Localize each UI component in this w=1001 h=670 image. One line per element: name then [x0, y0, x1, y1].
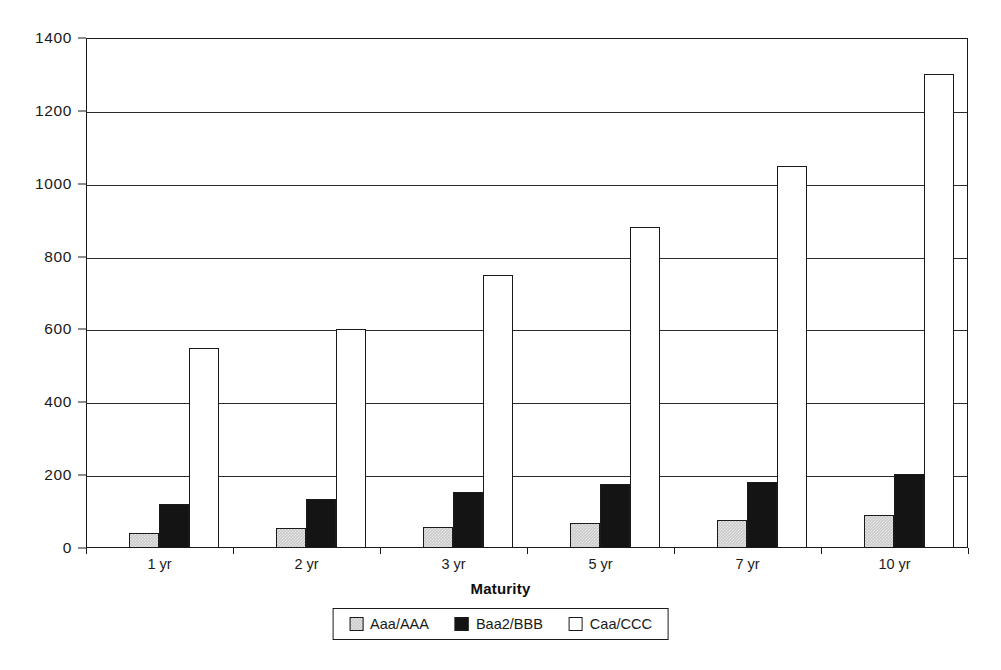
legend-label: Baa2/BBB	[476, 616, 543, 632]
bar	[189, 348, 219, 548]
x-axis-tick-mark	[968, 548, 969, 554]
x-axis-tick-mark	[233, 548, 234, 554]
bar	[336, 329, 366, 548]
x-axis-tick-label: 7 yr	[735, 556, 759, 572]
x-axis-title: Maturity	[0, 580, 1001, 597]
x-axis-tick-mark	[674, 548, 675, 554]
x-axis-labels: 1 yr2 yr3 yr5 yr7 yr10 yr	[86, 556, 968, 580]
legend-label: Aaa/AAA	[370, 616, 429, 632]
bar-group	[129, 38, 219, 548]
legend-label: Caa/CCC	[590, 616, 652, 632]
bar-group	[570, 38, 660, 548]
x-axis-tick-mark	[86, 548, 87, 554]
x-axis-tick-label: 5 yr	[588, 556, 612, 572]
y-axis-tick-mark	[78, 183, 86, 184]
x-axis-tick-label: 2 yr	[294, 556, 318, 572]
y-axis-tick-label: 200	[44, 466, 72, 484]
y-axis-tick-mark	[78, 38, 86, 39]
y-axis-tick-label: 800	[44, 248, 72, 266]
bar-group	[864, 38, 954, 548]
bar	[717, 520, 747, 548]
x-axis-tick-mark	[821, 548, 822, 554]
legend-item: Baa2/BBB	[455, 616, 543, 632]
y-axis-tick-label: 1200	[35, 102, 72, 120]
bar	[894, 474, 924, 548]
bar	[864, 515, 894, 548]
bar-group	[276, 38, 366, 548]
x-axis-tick-mark	[527, 548, 528, 554]
y-axis-tick-mark	[78, 548, 86, 549]
bar	[483, 275, 513, 548]
y-axis-tick-mark	[78, 256, 86, 257]
bar-chart: 0200400600800100012001400 1 yr2 yr3 yr5 …	[0, 0, 1001, 670]
y-axis-tick-label: 400	[44, 393, 72, 411]
legend-swatch-icon	[455, 617, 469, 631]
x-axis-tick-label: 3 yr	[441, 556, 465, 572]
legend-swatch-icon	[569, 617, 583, 631]
legend-item: Caa/CCC	[569, 616, 652, 632]
y-axis-tick-label: 0	[63, 539, 72, 557]
bar	[129, 533, 159, 548]
y-axis: 0200400600800100012001400	[0, 38, 86, 548]
chart-legend: Aaa/AAABaa2/BBBCaa/CCC	[332, 608, 669, 640]
bar	[600, 484, 630, 548]
bar	[453, 492, 483, 548]
bar	[924, 74, 954, 548]
legend-item: Aaa/AAA	[349, 616, 429, 632]
bar	[570, 523, 600, 549]
y-axis-tick-mark	[78, 402, 86, 403]
y-axis-tick-label: 1000	[35, 175, 72, 193]
legend-swatch-icon	[349, 617, 363, 631]
bar	[777, 166, 807, 549]
x-axis-tick-label: 1 yr	[147, 556, 171, 572]
y-axis-tick-mark	[78, 475, 86, 476]
y-axis-tick-label: 1400	[35, 29, 72, 47]
bars-layer	[86, 38, 968, 548]
y-axis-tick-mark	[78, 110, 86, 111]
bar	[306, 499, 336, 548]
bar	[747, 482, 777, 548]
y-axis-tick-label: 600	[44, 320, 72, 338]
bar	[630, 227, 660, 548]
bar-group	[423, 38, 513, 548]
bar	[159, 504, 189, 548]
bar-group	[717, 38, 807, 548]
x-axis-tick-mark	[380, 548, 381, 554]
y-axis-tick-mark	[78, 329, 86, 330]
bar	[423, 527, 453, 548]
bar	[276, 528, 306, 548]
x-axis-tick-label: 10 yr	[878, 556, 910, 572]
